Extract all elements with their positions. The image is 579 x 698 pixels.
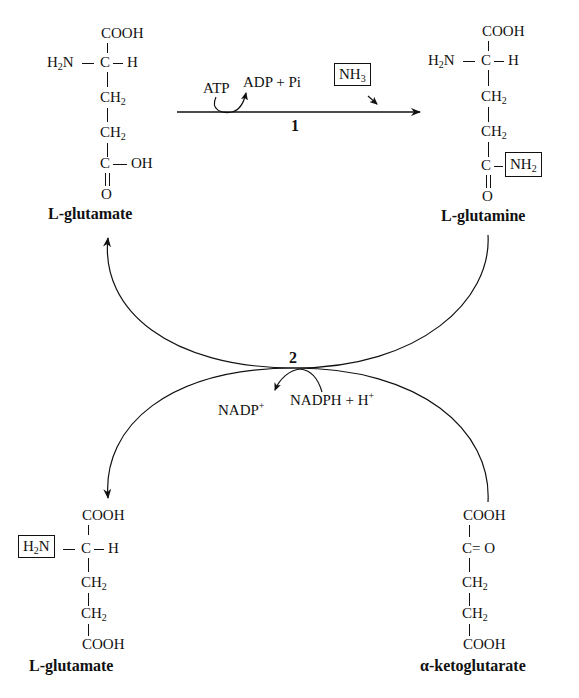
cooh-group: COOH (463, 636, 506, 653)
molecule-name: L-glutamate (48, 205, 132, 223)
ch2-group: CH2 (481, 88, 507, 105)
nh3-boxed-label: NH3 (334, 63, 371, 86)
h2n-boxed-group: H2N (18, 535, 55, 558)
hydrogen: H (108, 540, 119, 557)
hydroxyl-group: OH (131, 155, 153, 172)
keto-group: C= O (462, 540, 495, 557)
ch2-group: CH2 (481, 123, 507, 140)
nadph-label: NADPH + H+ (290, 392, 374, 409)
cooh-group: COOH (82, 636, 125, 653)
amine-group: H2N (428, 52, 455, 69)
cooh-group: COOH (82, 507, 125, 524)
reaction-1-number: 1 (291, 117, 299, 135)
amine-group: H2N (47, 54, 74, 71)
molecule-name: L-glutamate (29, 657, 113, 675)
oxygen: O (482, 188, 493, 205)
oxygen: O (101, 186, 112, 203)
ch2-group: CH2 (81, 605, 107, 622)
ch2-group: CH2 (100, 89, 126, 106)
ch2-group: CH2 (462, 605, 488, 622)
alpha-carbon: C (481, 52, 491, 69)
cooh-group: COOH (482, 23, 525, 40)
hydrogen: H (127, 54, 138, 71)
nh2-boxed-group: NH2 (505, 152, 542, 177)
carboxyl-carbon: C (100, 155, 110, 172)
ch2-group: CH2 (81, 574, 107, 591)
amide-carbon: C (481, 157, 491, 174)
ch2-group: CH2 (100, 124, 126, 141)
hydrogen: H (508, 52, 519, 69)
alpha-carbon: C (81, 540, 91, 557)
nadp-label: NADP+ (218, 402, 264, 419)
cooh-group: COOH (463, 507, 506, 524)
molecule-name: α-ketoglutarate (420, 657, 526, 675)
adp-pi-label: ADP + Pi (243, 74, 301, 91)
molecule-name: L-glutamine (441, 207, 525, 225)
cooh-group: COOH (101, 25, 144, 42)
reaction-2-number: 2 (289, 349, 297, 367)
alpha-carbon: C (100, 54, 110, 71)
atp-label: ATP (203, 80, 230, 97)
ch2-group: CH2 (462, 574, 488, 591)
